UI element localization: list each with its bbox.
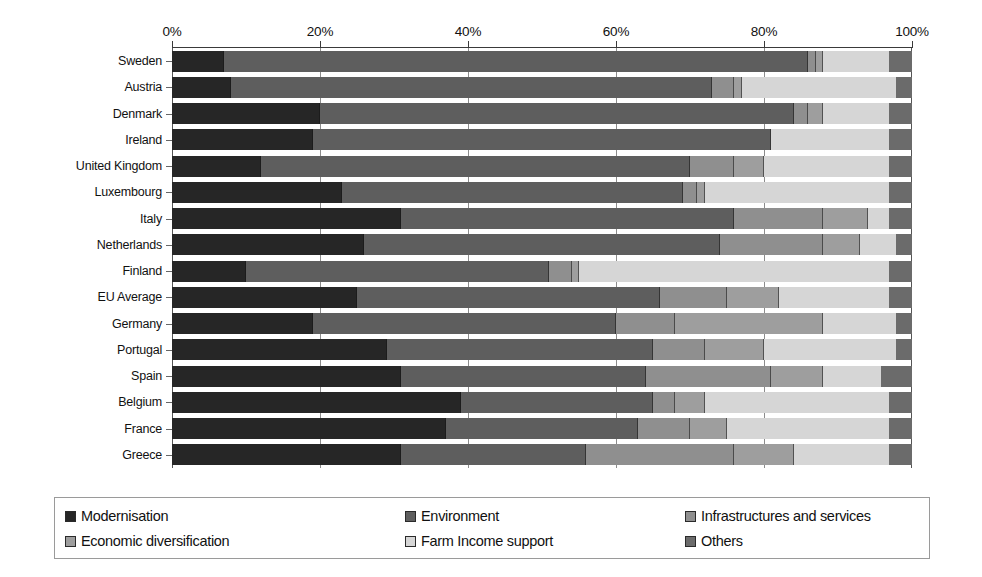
bar-row: EU Average xyxy=(0,284,982,310)
y-axis-category-label: Belgium xyxy=(0,389,162,415)
x-axis-tick xyxy=(616,41,617,48)
bar-segment xyxy=(172,287,357,308)
stacked-bar xyxy=(172,444,912,465)
bar-segment xyxy=(461,392,653,413)
bar-segment xyxy=(890,261,912,282)
bar-segment xyxy=(890,418,912,439)
x-axis-tick xyxy=(468,41,469,48)
x-axis-tick xyxy=(320,41,321,48)
bar-segment xyxy=(897,234,912,255)
bar-segment xyxy=(586,444,734,465)
bar-segment xyxy=(823,234,860,255)
bar-segment xyxy=(172,313,313,334)
bar-segment xyxy=(727,287,779,308)
stacked-bar xyxy=(172,313,912,334)
bar-row: Italy xyxy=(0,206,982,232)
y-axis-category-label: Austria xyxy=(0,74,162,100)
bar-row: Belgium xyxy=(0,389,982,415)
legend-swatch-icon xyxy=(405,511,416,522)
bar-row: France xyxy=(0,416,982,442)
x-axis-tick-label: 100% xyxy=(895,24,929,39)
bar-segment xyxy=(764,156,890,177)
x-axis-tick-labels: 0%20%40%60%80%100% xyxy=(172,24,912,44)
bar-row: Finland xyxy=(0,258,982,284)
bar-segment xyxy=(823,51,890,72)
bar-segment xyxy=(794,444,890,465)
stacked-bar xyxy=(172,77,912,98)
bar-segment xyxy=(387,339,653,360)
bar-segment xyxy=(734,444,793,465)
bar-segment xyxy=(231,77,712,98)
bar-segment xyxy=(401,208,734,229)
bar-segment xyxy=(683,182,698,203)
bar-segment xyxy=(890,444,912,465)
bar-row: Austria xyxy=(0,74,982,100)
y-axis-category-label: Sweden xyxy=(0,48,162,74)
bar-segment xyxy=(890,156,912,177)
legend-item[interactable]: Others xyxy=(685,529,743,553)
bar-segment xyxy=(638,418,690,439)
bar-segment xyxy=(882,366,912,387)
legend-swatch-icon xyxy=(65,536,76,547)
bar-segment xyxy=(712,77,734,98)
bar-segment xyxy=(771,129,889,150)
legend-swatch-icon xyxy=(685,511,696,522)
bar-segment xyxy=(734,156,764,177)
legend: ModernisationEnvironmentInfrastructures … xyxy=(54,497,930,559)
legend-swatch-icon xyxy=(65,511,76,522)
x-axis-tick-label: 0% xyxy=(162,24,181,39)
legend-label: Modernisation xyxy=(81,508,168,524)
bar-segment xyxy=(172,182,342,203)
bar-segment xyxy=(697,182,704,203)
stacked-bar xyxy=(172,287,912,308)
bar-row: Portugal xyxy=(0,337,982,363)
y-axis-category-label: Ireland xyxy=(0,127,162,153)
bar-row: Denmark xyxy=(0,101,982,127)
stacked-bar xyxy=(172,418,912,439)
bar-segment xyxy=(342,182,682,203)
x-axis-tick-label: 80% xyxy=(751,24,777,39)
bar-segment xyxy=(771,366,823,387)
bar-segment xyxy=(734,208,823,229)
bar-segment xyxy=(764,339,897,360)
bar-row: Greece xyxy=(0,442,982,468)
page-edge xyxy=(0,561,982,577)
bar-segment xyxy=(172,51,224,72)
legend-item[interactable]: Environment xyxy=(405,504,499,528)
bar-segment xyxy=(860,234,897,255)
bar-segment xyxy=(897,77,912,98)
y-axis-category-label: EU Average xyxy=(0,284,162,310)
legend-label: Infrastructures and services xyxy=(701,508,871,524)
y-axis-category-label: United Kingdom xyxy=(0,153,162,179)
bar-segment xyxy=(808,103,823,124)
bar-segment xyxy=(401,444,586,465)
bar-segment xyxy=(690,418,727,439)
legend-item[interactable]: Infrastructures and services xyxy=(685,504,871,528)
bar-row: Germany xyxy=(0,311,982,337)
bar-row: Ireland xyxy=(0,127,982,153)
bar-segment xyxy=(823,366,882,387)
bar-segment xyxy=(705,339,764,360)
legend-item[interactable]: Farm Income support xyxy=(405,529,553,553)
stacked-bar xyxy=(172,129,912,150)
bar-rows: SwedenAustriaDenmarkIrelandUnited Kingdo… xyxy=(0,48,982,468)
x-axis-tick xyxy=(912,41,913,48)
stacked-bar xyxy=(172,208,912,229)
legend-item[interactable]: Modernisation xyxy=(65,504,168,528)
legend-item[interactable]: Economic diversification xyxy=(65,529,229,553)
bar-segment xyxy=(734,77,741,98)
bar-row: Sweden xyxy=(0,48,982,74)
bar-segment xyxy=(705,182,890,203)
stacked-bar xyxy=(172,392,912,413)
x-axis-tick xyxy=(764,41,765,48)
bar-segment xyxy=(897,339,912,360)
stacked-bar xyxy=(172,339,912,360)
bar-segment xyxy=(897,313,912,334)
bar-segment xyxy=(246,261,549,282)
bar-segment xyxy=(172,339,387,360)
bar-segment xyxy=(172,261,246,282)
bar-segment xyxy=(224,51,809,72)
bar-segment xyxy=(823,208,867,229)
stacked-bar xyxy=(172,51,912,72)
bar-segment xyxy=(320,103,794,124)
